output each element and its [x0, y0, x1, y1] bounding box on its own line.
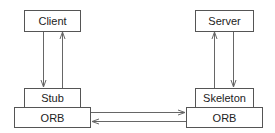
server-label: Server	[208, 15, 241, 27]
orb-right-label: ORB	[213, 112, 237, 124]
arrow-server-to-skeleton	[231, 32, 236, 87]
arrow-stub-to-client	[60, 32, 65, 88]
client-label: Client	[38, 15, 66, 27]
orb-left-label: ORB	[41, 112, 65, 124]
arrow-client-to-stub	[41, 32, 46, 87]
server-node: Server	[196, 11, 254, 32]
skeleton-node: Skeleton	[196, 89, 254, 108]
arrow-orb-right-to-orb-left	[92, 119, 186, 124]
orb-diagram: Client Stub ORB Server Skeleton ORB	[0, 0, 275, 133]
arrow-orb-left-to-orb-right	[91, 110, 185, 115]
stub-label: Stub	[41, 92, 64, 104]
arrow-skeleton-to-server	[212, 32, 217, 88]
stub-node: Stub	[25, 89, 81, 108]
skeleton-label: Skeleton	[203, 92, 246, 104]
orb-left-node: ORB	[15, 108, 91, 128]
client-node: Client	[25, 11, 81, 32]
orb-right-node: ORB	[187, 108, 263, 128]
